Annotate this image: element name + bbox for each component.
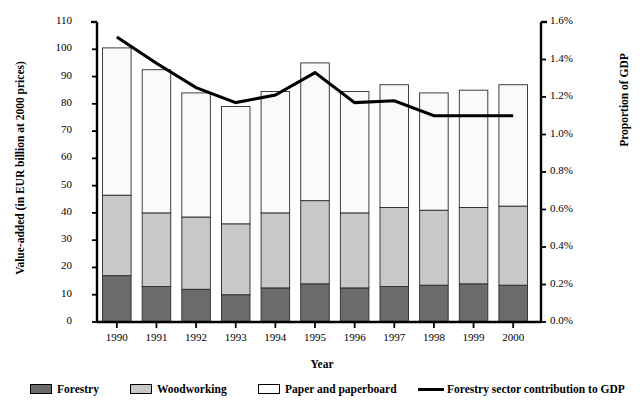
- bar-segment-forestry: [499, 285, 528, 322]
- bar-segment-paper-and-paperboard: [499, 85, 528, 206]
- y-axis-left-title: Value-added (in EUR billion at 2000 pric…: [14, 18, 26, 318]
- bar-segment-paper-and-paperboard: [103, 48, 132, 195]
- y-left-tick-label: 70: [20, 123, 72, 135]
- bar-segment-woodworking: [301, 201, 330, 284]
- bar-segment-woodworking: [142, 213, 171, 287]
- bar-segment-paper-and-paperboard: [261, 92, 290, 213]
- bar-segment-paper-and-paperboard: [301, 63, 330, 201]
- bar-segment-woodworking: [182, 217, 211, 289]
- y-right-tick-label: 1.2%: [550, 89, 610, 101]
- bar-segment-forestry: [459, 284, 488, 322]
- bar-segment-woodworking: [380, 207, 409, 286]
- legend-label: Paper and paperboard: [285, 383, 397, 395]
- bar-stack: [103, 48, 132, 322]
- y-left-tick-label: 110: [20, 14, 72, 26]
- bar-segment-forestry: [420, 285, 449, 322]
- bar-segment-paper-and-paperboard: [142, 70, 171, 213]
- bar-stack: [182, 93, 211, 322]
- forestry-value-added-chart: Value-added (in EUR billion at 2000 pric…: [0, 0, 644, 411]
- bar-stack: [261, 92, 290, 322]
- bar-stack: [420, 93, 449, 322]
- y-left-tick-label: 60: [20, 150, 72, 162]
- bar-segment-woodworking: [420, 210, 449, 285]
- legend-swatch: [30, 384, 52, 394]
- bar-segment-forestry: [340, 288, 369, 322]
- legend-swatch: [130, 384, 152, 394]
- y-left-tick-label: 80: [20, 96, 72, 108]
- y-right-tick-label: 1.0%: [550, 127, 610, 139]
- bars-group: [103, 48, 528, 322]
- bar-segment-paper-and-paperboard: [459, 90, 488, 207]
- bar-segment-paper-and-paperboard: [340, 92, 369, 213]
- bar-segment-woodworking: [459, 207, 488, 283]
- y-left-tick-label: 50: [20, 178, 72, 190]
- legend-swatch: [258, 384, 280, 394]
- bar-stack: [380, 85, 409, 322]
- bar-segment-forestry: [103, 276, 132, 322]
- y-right-tick-label: 0.6%: [550, 202, 610, 214]
- legend-item: Forestry sector contribution to GDP: [418, 383, 625, 395]
- y-left-tick-label: 100: [20, 41, 72, 53]
- y-left-tick-label: 20: [20, 259, 72, 271]
- y-left-tick-label: 40: [20, 205, 72, 217]
- bar-stack: [301, 63, 330, 322]
- y-right-tick-label: 1.6%: [550, 14, 610, 26]
- x-axis-title: Year: [0, 358, 644, 370]
- bar-segment-paper-and-paperboard: [182, 93, 211, 217]
- x-tick-label: 2000: [483, 331, 543, 343]
- legend-line-marker: [418, 388, 444, 391]
- bar-segment-woodworking: [340, 213, 369, 288]
- bar-stack: [459, 90, 488, 322]
- y-left-tick-label: 0: [20, 314, 72, 326]
- legend-item: Woodworking: [130, 383, 227, 395]
- bar-segment-forestry: [182, 289, 211, 322]
- legend-label: Forestry: [57, 383, 99, 395]
- bar-stack: [142, 70, 171, 322]
- y-right-tick-label: 0.0%: [550, 314, 610, 326]
- legend-item: Forestry: [30, 383, 99, 395]
- plot-area: [0, 0, 644, 411]
- bar-stack: [499, 85, 528, 322]
- y-left-tick-label: 30: [20, 232, 72, 244]
- bar-segment-woodworking: [103, 195, 132, 275]
- bar-stack: [340, 92, 369, 322]
- bar-segment-woodworking: [221, 224, 250, 295]
- legend-label: Forestry sector contribution to GDP: [447, 383, 625, 395]
- bar-segment-forestry: [221, 295, 250, 322]
- y-right-tick-label: 1.4%: [550, 52, 610, 64]
- y-left-tick-label: 90: [20, 69, 72, 81]
- y-right-tick-label: 0.4%: [550, 239, 610, 251]
- y-right-tick-label: 0.2%: [550, 277, 610, 289]
- y-axis-right-title: Proportion of GDP: [618, 0, 630, 250]
- bar-stack: [221, 107, 250, 322]
- bar-segment-woodworking: [499, 206, 528, 285]
- y-left-tick-label: 10: [20, 287, 72, 299]
- bar-segment-forestry: [301, 284, 330, 322]
- chart-legend: ForestryWoodworkingPaper and paperboardF…: [0, 378, 644, 400]
- legend-label: Woodworking: [157, 383, 227, 395]
- legend-item: Paper and paperboard: [258, 383, 397, 395]
- bar-segment-paper-and-paperboard: [221, 107, 250, 224]
- bar-segment-forestry: [261, 288, 290, 322]
- bar-segment-woodworking: [261, 213, 290, 288]
- bar-segment-forestry: [142, 287, 171, 322]
- y-right-tick-label: 0.8%: [550, 164, 610, 176]
- bar-segment-forestry: [380, 287, 409, 322]
